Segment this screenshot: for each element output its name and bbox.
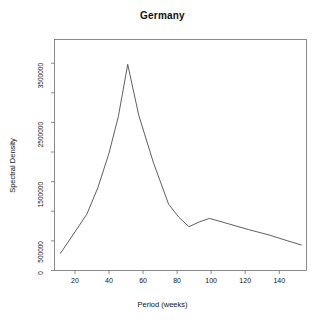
x-tick-marks — [75, 271, 279, 275]
x-tick-label: 140 — [264, 277, 294, 284]
y-tick-label: 3500000 — [37, 57, 44, 105]
y-tick-label: 500000 — [37, 235, 44, 283]
x-tick-label: 100 — [196, 277, 226, 284]
y-tick-marks — [51, 63, 55, 270]
data-line-0 — [60, 64, 301, 253]
x-tick-label: 40 — [94, 277, 124, 284]
x-tick-label: 60 — [128, 277, 158, 284]
y-tick-label: 1500000 — [37, 176, 44, 224]
axis-frame — [55, 40, 307, 271]
data-series-group — [60, 64, 301, 253]
y-tick-label: 2500000 — [37, 116, 44, 164]
plot-border — [55, 40, 307, 271]
x-tick-label: 120 — [230, 277, 260, 284]
x-tick-label: 80 — [162, 277, 192, 284]
x-tick-label: 20 — [60, 277, 90, 284]
chart-figure: Germany Spectral Density Period (weeks) … — [0, 0, 325, 330]
